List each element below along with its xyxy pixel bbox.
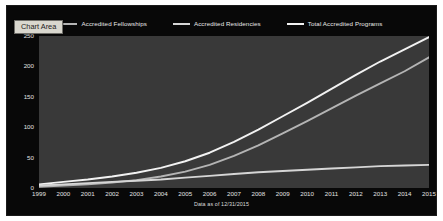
x-axis-tick-label: 2000 [56, 191, 70, 197]
legend-item-accredited-residencies[interactable]: Accredited Residencies [173, 21, 261, 27]
chart-legend: Accredited Fellowships Accredited Reside… [7, 16, 436, 32]
x-axis-tick-label: 2008 [251, 191, 265, 197]
series-line [39, 165, 429, 186]
legend-label: Total Accredited Programs [308, 21, 383, 27]
line-swatch-icon [287, 23, 304, 25]
y-axis-tick-label: 50 [27, 154, 34, 160]
legend-label: Accredited Fellowships [81, 21, 146, 27]
legend-item-accredited-fellowships[interactable]: Accredited Fellowships [60, 21, 146, 27]
line-swatch-icon [173, 23, 190, 25]
legend-item-total-accredited-programs[interactable]: Total Accredited Programs [287, 21, 383, 27]
x-axis-tick-label: 2010 [300, 191, 314, 197]
x-axis-tick-label: 2015 [422, 191, 436, 197]
x-axis-tick-label: 2004 [154, 191, 168, 197]
y-axis-tick-label: 150 [24, 94, 34, 100]
footnote-text: Data as of 12/31/2015 [7, 202, 436, 207]
x-axis-tick-label: 1999 [32, 191, 46, 197]
x-axis-tick-label: 2005 [178, 191, 192, 197]
x-axis-tick-label: 2012 [349, 191, 363, 197]
x-axis-tick-label: 2006 [203, 191, 217, 197]
series-line [39, 37, 429, 184]
legend-label: Accredited Residencies [194, 21, 261, 27]
y-axis-tick-label: 100 [24, 124, 34, 130]
x-axis-tick-label: 2014 [398, 191, 412, 197]
x-axis-tick-label: 2001 [81, 191, 95, 197]
series-lines [39, 36, 429, 188]
plot-area[interactable] [39, 36, 429, 188]
x-axis-tick-label: 2002 [105, 191, 119, 197]
x-axis-tick-label: 2007 [227, 191, 241, 197]
y-axis: 050100150200250 [7, 36, 37, 188]
x-axis-tick-label: 2009 [276, 191, 290, 197]
y-axis-tick-label: 200 [24, 63, 34, 69]
x-axis-tick-label: 2013 [373, 191, 387, 197]
x-axis-tick-label: 2003 [130, 191, 144, 197]
chart-area-tooltip: Chart Area [14, 20, 63, 34]
x-axis-tick-label: 2011 [325, 191, 338, 197]
chart-container[interactable]: Accredited Fellowships Accredited Reside… [6, 5, 437, 216]
